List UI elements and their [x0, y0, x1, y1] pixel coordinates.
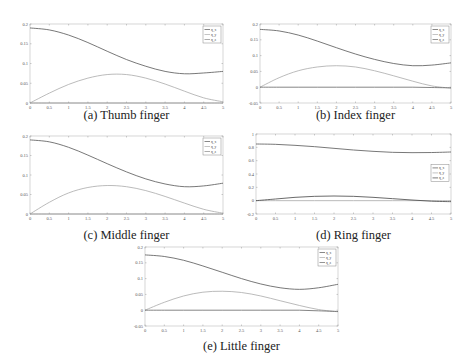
- y-tick-label: 0: [256, 85, 259, 90]
- plot-frame: [260, 24, 451, 103]
- panel-middle: 00.511.522.533.544.5500.050.10.150.2q_xq…: [30, 136, 223, 214]
- caption-thumb: (a) Thumb finger: [30, 108, 223, 123]
- y-tick-label: -0.2: [247, 212, 254, 217]
- y-tick-label: -0.05: [134, 324, 144, 329]
- x-tick-label: 2: [333, 216, 335, 221]
- legend: q_xq_yq_z: [431, 26, 449, 43]
- legend-label: q_y: [211, 33, 217, 37]
- y-tick-label: 0.1: [137, 276, 143, 281]
- legend-label: q_z: [439, 176, 445, 180]
- y-tick-label: 0.2: [137, 245, 143, 250]
- x-tick-label: 5: [222, 216, 225, 221]
- legend: q_xq_yq_z: [203, 138, 221, 155]
- y-tick-label: 0.1: [22, 61, 28, 66]
- y-tick-label: 0.1: [22, 173, 28, 178]
- legend-label: q_y: [211, 145, 217, 149]
- legend-label: q_x: [326, 251, 332, 255]
- legend-label: q_y: [326, 256, 332, 260]
- y-tick-label: 0.15: [250, 37, 259, 42]
- y-tick-label: 0.2: [22, 134, 28, 139]
- y-tick-label: 0.2: [248, 185, 254, 190]
- x-tick-label: 3.5: [277, 328, 283, 333]
- x-tick-label: 2.5: [124, 216, 130, 221]
- x-tick-label: 5: [337, 328, 340, 333]
- y-tick-label: 0.15: [20, 153, 29, 158]
- x-tick-label: 3: [372, 216, 375, 221]
- chart-little: 00.511.522.533.544.55-0.0500.050.10.150.…: [145, 247, 338, 326]
- legend-label: q_x: [211, 140, 217, 144]
- caption-index: (b) Index finger: [260, 108, 451, 123]
- x-tick-label: 4.5: [316, 328, 322, 333]
- y-tick-label: 0.05: [20, 192, 29, 197]
- y-tick-label: -0.05: [249, 101, 259, 106]
- legend-label: q_z: [439, 38, 445, 42]
- y-tick-label: 0.1: [252, 53, 258, 58]
- x-tick-label: 5: [450, 216, 453, 221]
- x-tick-label: 4.5: [201, 216, 207, 221]
- x-tick-label: 1: [294, 216, 296, 221]
- panel-thumb: 00.511.522.533.544.5500.050.10.150.2q_xq…: [30, 24, 223, 103]
- chart-index: 00.511.522.533.544.55-0.0500.050.10.150.…: [260, 24, 451, 103]
- legend: q_xq_yq_z: [203, 26, 221, 43]
- legend-label: q_x: [439, 28, 445, 32]
- legend-label: q_z: [211, 38, 217, 42]
- legend-label: q_y: [439, 171, 445, 175]
- x-tick-label: 1.5: [85, 216, 91, 221]
- y-tick-label: 0.6: [248, 158, 254, 163]
- y-tick-label: 0.8: [248, 145, 254, 150]
- y-tick-label: 0.05: [20, 81, 29, 86]
- caption-ring: (d) Ring finger: [256, 228, 451, 243]
- y-tick-label: 0.2: [22, 22, 28, 27]
- x-tick-label: 2.5: [239, 328, 245, 333]
- legend-label: q_y: [439, 33, 445, 37]
- y-tick-label: 0: [141, 308, 144, 313]
- x-tick-label: 1.5: [200, 328, 206, 333]
- x-tick-label: 3.5: [390, 216, 396, 221]
- x-tick-label: 0: [29, 216, 32, 221]
- chart-middle: 00.511.522.533.544.5500.050.10.150.2q_xq…: [30, 136, 223, 214]
- legend-label: q_x: [439, 166, 445, 170]
- chart-thumb: 00.511.522.533.544.5500.050.10.150.2q_xq…: [30, 24, 223, 103]
- x-tick-label: 1: [182, 328, 184, 333]
- legend-label: q_x: [211, 28, 217, 32]
- panel-index: 00.511.522.533.544.55-0.0500.050.10.150.…: [260, 24, 451, 103]
- y-tick-label: 0.15: [135, 260, 144, 265]
- x-tick-label: 0: [144, 328, 147, 333]
- plot-frame: [30, 136, 223, 214]
- legend: q_xq_yq_z: [318, 249, 336, 266]
- x-tick-label: 0.5: [273, 216, 279, 221]
- legend-label: q_z: [326, 261, 332, 265]
- x-tick-label: 4: [183, 216, 186, 221]
- legend-label: q_z: [211, 150, 217, 154]
- y-tick-label: 0: [252, 198, 255, 203]
- x-tick-label: 2.5: [351, 216, 357, 221]
- plot-frame: [30, 24, 223, 103]
- x-tick-label: 0.5: [46, 216, 52, 221]
- caption-middle: (c) Middle finger: [30, 228, 223, 243]
- x-tick-label: 1: [67, 216, 69, 221]
- y-tick-label: 0.05: [135, 292, 144, 297]
- x-tick-label: 1.5: [312, 216, 318, 221]
- y-tick-label: 1: [252, 132, 254, 137]
- y-tick-label: 0.05: [250, 69, 259, 74]
- x-tick-label: 0: [255, 216, 258, 221]
- panel-ring: 00.511.522.533.544.55-0.200.20.40.60.81q…: [256, 134, 451, 214]
- y-tick-label: 0.15: [20, 41, 29, 46]
- x-tick-label: 3: [260, 328, 263, 333]
- x-tick-label: 4: [411, 216, 414, 221]
- y-tick-label: 0.4: [248, 172, 254, 177]
- plot-frame: [145, 247, 338, 326]
- panel-little: 00.511.522.533.544.55-0.0500.050.10.150.…: [145, 247, 338, 326]
- x-tick-label: 4: [298, 328, 301, 333]
- chart-ring: 00.511.522.533.544.55-0.200.20.40.60.81q…: [256, 134, 451, 214]
- plot-frame: [256, 134, 451, 214]
- caption-little: (e) Little finger: [145, 339, 338, 354]
- y-tick-label: 0.2: [252, 22, 258, 27]
- x-tick-label: 0.5: [161, 328, 167, 333]
- x-tick-label: 2: [221, 328, 223, 333]
- x-tick-label: 2: [106, 216, 108, 221]
- legend: q_xq_yq_z: [431, 164, 449, 181]
- x-tick-label: 3: [145, 216, 148, 221]
- x-tick-label: 3.5: [162, 216, 168, 221]
- x-tick-label: 4.5: [429, 216, 435, 221]
